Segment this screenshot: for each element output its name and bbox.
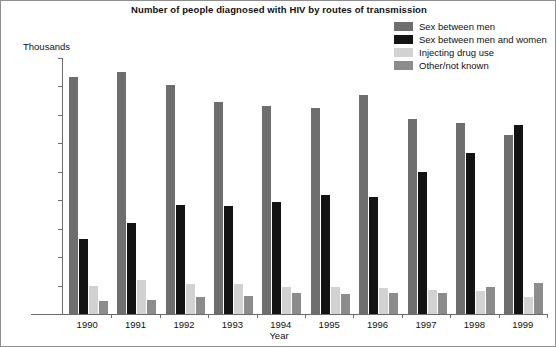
legend-label: Sex between men and women	[419, 34, 547, 45]
x-axis-tick-label: 1997	[406, 319, 446, 330]
bar[interactable]	[166, 85, 175, 314]
bar[interactable]	[262, 106, 271, 314]
bar[interactable]	[234, 284, 243, 314]
bar[interactable]	[466, 153, 475, 314]
bar[interactable]	[369, 197, 378, 314]
bar[interactable]	[282, 287, 291, 314]
chart-container: Number of people diagnosed with HIV by r…	[0, 0, 556, 347]
bar[interactable]	[514, 125, 523, 314]
bar[interactable]	[418, 172, 427, 314]
bar[interactable]	[438, 293, 447, 314]
bar-group	[166, 58, 205, 314]
bar[interactable]	[127, 223, 136, 314]
legend-item[interactable]: Sex between men	[394, 20, 547, 33]
bar[interactable]	[272, 202, 281, 314]
bar[interactable]	[504, 135, 513, 314]
chart-title: Number of people diagnosed with HIV by r…	[1, 4, 556, 15]
x-axis-tick-label: 1995	[309, 319, 349, 330]
legend-swatch-icon	[394, 35, 413, 44]
x-axis-tick-mark	[208, 314, 209, 318]
bar-group	[504, 58, 543, 314]
x-axis-tick-mark	[499, 314, 500, 318]
x-axis-tick-label: 1993	[212, 319, 252, 330]
legend-swatch-icon	[394, 48, 413, 57]
bar[interactable]	[117, 72, 126, 314]
plot-area	[63, 58, 547, 314]
bar[interactable]	[389, 293, 398, 314]
x-axis-tick-mark	[547, 314, 548, 318]
bar-group	[262, 58, 301, 314]
x-axis-title: Year	[1, 330, 556, 341]
x-axis-tick-mark	[305, 314, 306, 318]
x-axis-tick-label: 1992	[164, 319, 204, 330]
legend-item[interactable]: Sex between men and women	[394, 33, 547, 46]
x-axis-tick-label: 1990	[67, 319, 107, 330]
bar[interactable]	[359, 95, 368, 314]
bar[interactable]	[428, 290, 437, 314]
bar-group	[214, 58, 253, 314]
bar[interactable]	[341, 294, 350, 314]
bar[interactable]	[321, 195, 330, 314]
x-axis-tick-mark	[402, 314, 403, 318]
x-axis-tick-mark	[257, 314, 258, 318]
bar-group	[359, 58, 398, 314]
x-axis-tick-label: 1996	[358, 319, 398, 330]
bar[interactable]	[331, 287, 340, 314]
bar[interactable]	[147, 300, 156, 314]
bar[interactable]	[486, 287, 495, 314]
bar[interactable]	[408, 119, 417, 314]
bar[interactable]	[224, 206, 233, 314]
bar[interactable]	[89, 286, 98, 314]
bar[interactable]	[292, 293, 301, 314]
bar[interactable]	[534, 283, 543, 314]
legend-swatch-icon	[394, 22, 413, 31]
y-axis-tick-labels: 0.0000.2000.4000.6000.8001.0001.2001.400…	[1, 1, 58, 347]
bar-group	[311, 58, 350, 314]
x-axis-tick-mark	[450, 314, 451, 318]
bar[interactable]	[456, 123, 465, 314]
bar[interactable]	[244, 296, 253, 314]
bar[interactable]	[476, 291, 485, 314]
bar[interactable]	[186, 284, 195, 314]
x-axis-tick-label: 1991	[116, 319, 156, 330]
bar[interactable]	[69, 77, 78, 315]
x-axis-line	[31, 314, 547, 315]
bar[interactable]	[214, 102, 223, 314]
bar[interactable]	[137, 280, 146, 314]
bar-group	[69, 58, 108, 314]
x-axis-tick-label: 1999	[503, 319, 543, 330]
bar-group	[408, 58, 447, 314]
legend-label: Injecting drug use	[419, 47, 494, 58]
bar-group	[456, 58, 495, 314]
x-axis-tick-label: 1994	[261, 319, 301, 330]
bar[interactable]	[79, 239, 88, 314]
bar[interactable]	[176, 205, 185, 315]
bar[interactable]	[196, 297, 205, 314]
x-axis-tick-mark	[160, 314, 161, 318]
bar[interactable]	[524, 297, 533, 314]
bar[interactable]	[99, 301, 108, 314]
bar[interactable]	[311, 108, 320, 314]
x-axis-tick-label: 1998	[454, 319, 494, 330]
x-axis-tick-mark	[111, 314, 112, 318]
bar-group	[117, 58, 156, 314]
bar[interactable]	[379, 288, 388, 314]
x-axis-tick-mark	[353, 314, 354, 318]
legend-label: Sex between men	[419, 21, 495, 32]
